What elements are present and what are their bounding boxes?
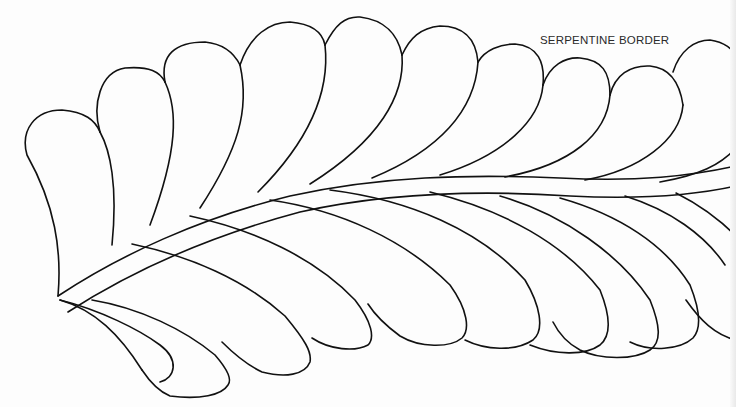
- pattern-page: SERPENTINE BORDER: [0, 0, 736, 407]
- feather-border-drawing: [0, 0, 736, 407]
- bottom-feathers: [60, 190, 736, 397]
- spine: [58, 166, 736, 312]
- page-edge-shadow: [730, 0, 736, 407]
